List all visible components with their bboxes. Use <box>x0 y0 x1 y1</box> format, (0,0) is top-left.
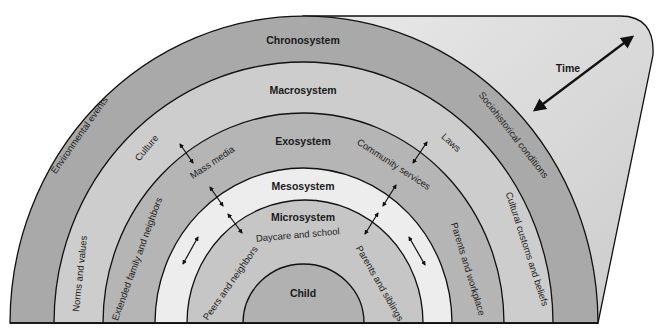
child-label: Child <box>290 287 316 299</box>
ecological-systems-diagram: Time Chronosystem Macrosystem Exosystem … <box>0 0 663 333</box>
mesosystem-label: Mesosystem <box>271 180 334 192</box>
chronosystem-label: Chronosystem <box>266 34 340 46</box>
macrosystem-label: Macrosystem <box>269 84 336 96</box>
exosystem-label: Exosystem <box>275 135 330 147</box>
microsystem-label: Microsystem <box>271 211 335 223</box>
time-label: Time <box>556 62 580 74</box>
